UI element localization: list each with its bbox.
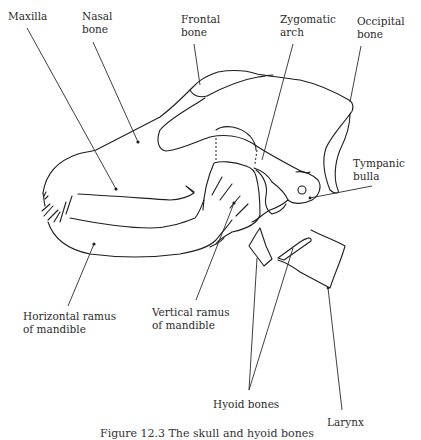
leader-hyoid-1 — [249, 258, 257, 390]
occipital-outline — [324, 114, 350, 193]
label-vertical-line1: Vertical ramus — [152, 306, 230, 319]
leader-hyoid-2 — [249, 248, 293, 390]
label-vertical-ramus: Vertical ramus of mandible — [152, 306, 230, 332]
leader-frontal — [194, 44, 200, 85]
label-vertical-line2: of mandible — [152, 319, 230, 332]
condyle — [256, 170, 286, 214]
hyoid-ceratohyoid — [278, 238, 311, 260]
label-tympanic-bulla: Tympanic bulla — [353, 157, 405, 183]
label-nasal-line2: bone — [82, 23, 112, 36]
maxilla-lower-edge — [78, 186, 194, 200]
zygomatic-arch-shape — [216, 127, 256, 150]
orbit-outline — [158, 98, 310, 173]
tympanic-bulla-shape — [288, 172, 320, 204]
dot-vertical-ramus — [232, 201, 235, 204]
label-nasal-line1: Nasal — [82, 10, 112, 23]
label-tympanic-line1: Tympanic — [353, 157, 405, 170]
label-horizontal-line1: Horizontal ramus — [23, 310, 116, 323]
ramus-muscle-lines — [212, 177, 248, 216]
mandible-upper-edge — [70, 200, 204, 228]
label-horizontal-line2: of mandible — [23, 323, 116, 336]
label-maxilla: Maxilla — [8, 10, 47, 23]
label-tympanic-line2: bulla — [353, 170, 405, 183]
label-occipital-line2: bone — [357, 28, 405, 41]
label-frontal-line1: Frontal — [181, 13, 220, 26]
label-larynx: Larynx — [327, 416, 364, 429]
label-frontal-bone: Frontal bone — [181, 13, 220, 39]
incisors — [42, 192, 72, 222]
dot-larynx — [327, 287, 330, 290]
label-hyoid-bones: Hyoid bones — [213, 398, 279, 411]
label-frontal-line2: bone — [181, 26, 220, 39]
dot-tympanic — [309, 197, 312, 200]
hyoid-stylohyoid — [249, 228, 272, 266]
bulla-opening — [298, 186, 306, 194]
dot-nasal — [136, 140, 139, 143]
leader-zygomatic — [262, 44, 293, 160]
dot-horizontal-ramus — [92, 242, 95, 245]
label-maxilla-line1: Maxilla — [8, 10, 47, 23]
label-nasal-bone: Nasal bone — [82, 10, 112, 36]
leader-vertical-ramus — [196, 203, 234, 300]
leader-maxilla — [27, 28, 116, 189]
larynx-shape — [278, 230, 345, 288]
figure-caption: Figure 12.3 The skull and hyoid bones — [100, 427, 314, 440]
leader-occipital — [350, 46, 361, 102]
leader-horizontal-ramus — [68, 244, 94, 306]
label-occipital-line1: Occipital — [357, 15, 405, 28]
label-larynx-line1: Larynx — [327, 416, 364, 429]
skull-upper-outline — [43, 71, 353, 193]
mandible-outline — [48, 220, 232, 257]
label-zygomatic-arch: Zygomatic arch — [280, 13, 336, 39]
zygomatic-suture-2 — [255, 150, 257, 164]
label-horizontal-ramus: Horizontal ramus of mandible — [23, 310, 116, 336]
label-hyoid-line1: Hyoid bones — [213, 398, 279, 411]
vertical-ramus-shape — [203, 162, 260, 244]
frontal-ridge — [190, 75, 273, 97]
leader-nasal — [93, 42, 138, 142]
label-occipital-bone: Occipital bone — [357, 15, 405, 41]
leader-larynx — [328, 288, 342, 410]
label-zygomatic-line2: arch — [280, 26, 336, 39]
temporomandibular-joint — [252, 168, 288, 222]
dot-maxilla — [114, 187, 117, 190]
label-zygomatic-line1: Zygomatic — [280, 13, 336, 26]
